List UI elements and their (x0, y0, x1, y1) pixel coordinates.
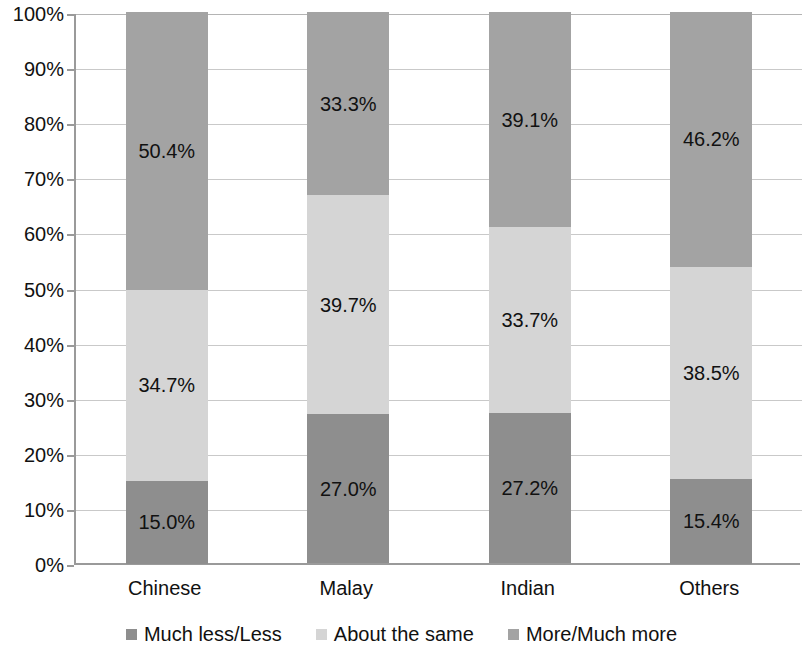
y-axis-tick-label: 50% (0, 280, 64, 300)
bar-segment-value-label: 39.1% (501, 110, 558, 130)
legend-label: Much less/Less (144, 624, 282, 644)
y-axis-tick-label: 40% (0, 335, 64, 355)
bar-segment-value-label: 38.5% (683, 363, 740, 383)
stacked-bar-chart: 0%10%20%30%40%50%60%70%80%90%100% 50.4%3… (0, 0, 803, 651)
bar-segment-value-label: 33.7% (501, 310, 558, 330)
legend-label: More/Much more (526, 624, 677, 644)
bar-segment-value-label: 34.7% (138, 375, 195, 395)
legend-item[interactable]: More/Much more (508, 624, 677, 644)
y-axis-tick (67, 234, 74, 236)
y-axis-tick (67, 179, 74, 181)
y-axis-tick-label: 70% (0, 169, 64, 189)
y-axis-tick-label: 100% (0, 4, 64, 24)
bar-segment[interactable]: 27.2% (489, 413, 571, 563)
legend-item[interactable]: About the same (316, 624, 474, 644)
bar-segment-value-label: 27.0% (320, 479, 377, 499)
bar-indian[interactable]: 39.1%33.7%27.2% (489, 12, 571, 563)
bar-segment[interactable]: 34.7% (126, 290, 208, 481)
x-axis-category-label: Indian (443, 578, 613, 598)
bar-segment[interactable]: 39.1% (489, 12, 571, 227)
bar-segment[interactable]: 46.2% (670, 12, 752, 267)
y-axis-tick (67, 455, 74, 457)
y-axis-tick-label: 60% (0, 224, 64, 244)
bar-others[interactable]: 46.2%38.5%15.4% (670, 12, 752, 563)
y-axis-labels: 0%10%20%30%40%50%60%70%80%90%100% (0, 0, 64, 580)
y-axis-tick (67, 14, 74, 16)
y-axis-tick (67, 124, 74, 126)
bar-segment[interactable]: 39.7% (307, 195, 389, 414)
bar-segment[interactable]: 15.4% (670, 479, 752, 564)
legend-label: About the same (334, 624, 474, 644)
bar-segment-value-label: 46.2% (683, 129, 740, 149)
bar-segment[interactable]: 50.4% (126, 12, 208, 290)
bar-segment[interactable]: 38.5% (670, 267, 752, 479)
y-axis-tick (67, 510, 74, 512)
legend-swatch-icon (316, 629, 327, 640)
bar-malay[interactable]: 33.3%39.7%27.0% (307, 12, 389, 563)
plot-area: 50.4%34.7%15.0%33.3%39.7%27.0%39.1%33.7%… (74, 14, 800, 565)
y-axis-tick (67, 69, 74, 71)
legend-item[interactable]: Much less/Less (126, 624, 282, 644)
legend-swatch-icon (508, 629, 519, 640)
y-axis-tick (67, 400, 74, 402)
chart-legend: Much less/LessAbout the sameMore/Much mo… (0, 624, 803, 644)
bar-segment-value-label: 39.7% (320, 295, 377, 315)
bar-chinese[interactable]: 50.4%34.7%15.0% (126, 12, 208, 563)
bar-segment[interactable]: 15.0% (126, 481, 208, 564)
y-axis-tick (67, 565, 74, 567)
x-axis-category-label: Others (624, 578, 794, 598)
y-axis-tick-label: 30% (0, 390, 64, 410)
bar-segment-value-label: 27.2% (501, 478, 558, 498)
bar-segment[interactable]: 27.0% (307, 414, 389, 563)
bar-segment-value-label: 33.3% (320, 94, 377, 114)
y-axis-tick-label: 90% (0, 59, 64, 79)
bar-segment-value-label: 15.4% (683, 511, 740, 531)
x-axis-category-label: Malay (261, 578, 431, 598)
bar-segment-value-label: 50.4% (138, 141, 195, 161)
y-axis-tick (67, 290, 74, 292)
legend-swatch-icon (126, 629, 137, 640)
y-axis-tick (67, 345, 74, 347)
y-axis-tick-label: 0% (0, 555, 64, 575)
bar-segment[interactable]: 33.3% (307, 12, 389, 195)
bar-segment-value-label: 15.0% (138, 512, 195, 532)
y-axis-tick-label: 10% (0, 500, 64, 520)
x-axis-category-label: Chinese (80, 578, 250, 598)
bar-segment[interactable]: 33.7% (489, 227, 571, 413)
y-axis-tick-label: 20% (0, 445, 64, 465)
y-axis-tick-label: 80% (0, 114, 64, 134)
